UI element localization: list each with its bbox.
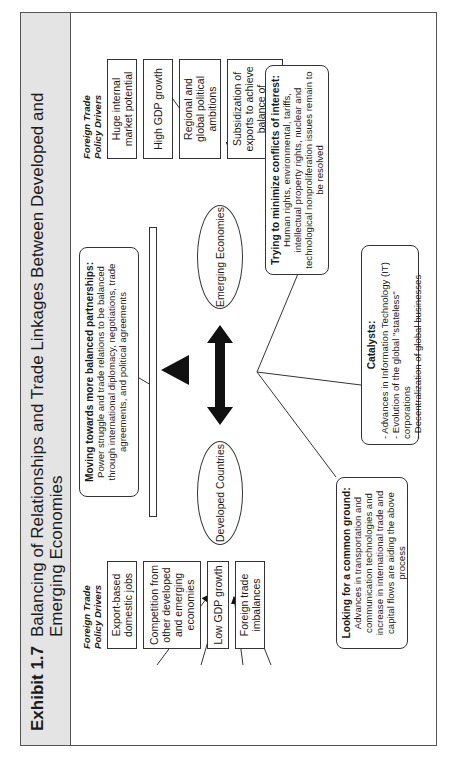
catalyst-item: - Evolution of the global "stateless" co…: [390, 251, 412, 439]
common-ground-callout: Looking for a common ground: Advances in…: [336, 477, 408, 649]
developed-driver-box: Export-based domestic jobs: [107, 561, 137, 649]
double-arrow-icon: [207, 325, 233, 425]
common-ground-heading: Looking for a common ground:: [341, 483, 352, 643]
balanced-partnerships-callout: Moving towards more balanced partnership…: [79, 247, 139, 497]
conflicts-of-interest-callout: Trying to minimize conflicts of interest…: [265, 65, 329, 275]
exhibit-frame: Exhibit 1.7 Balancing of Relationships a…: [20, 12, 437, 746]
developed-countries-ellipse: Developed Countries: [197, 441, 243, 545]
catalysts-callout: Catalysts: - Advances in Information Tec…: [361, 245, 419, 445]
emerging-driver-box: Regional and global political ambitions: [179, 59, 221, 159]
common-ground-body: Advances in transportation and communica…: [352, 491, 407, 636]
catalysts-list: - Advances in Information Technology (IT…: [379, 251, 423, 439]
emerging-economies-ellipse: Emerging Economies: [197, 205, 243, 309]
catalyst-item: - Advances in Information Technology (IT…: [379, 251, 390, 439]
emerging-driver-box: High GDP growth: [143, 59, 173, 159]
conflicts-body: Human rights, environmental, tariffs, in…: [281, 71, 325, 268]
conflicts-heading: Trying to minimize conflicts of interest…: [270, 71, 281, 269]
developed-driver-box: Foreign trade imbalances: [235, 561, 265, 649]
fulcrum-triangle-icon: [161, 355, 189, 385]
emerging-drivers-heading: Foreign Trade Policy Drivers: [81, 89, 103, 159]
developed-driver-box: Competition from other developed and eme…: [143, 561, 201, 649]
balanced-partnerships-body: Power struggle and trade relations to be…: [95, 264, 128, 481]
balance-beam: [149, 227, 157, 517]
emerging-driver-box: Huge internal market potential: [107, 59, 137, 159]
developed-drivers-heading: Foreign Trade Policy Drivers: [81, 579, 103, 649]
balanced-partnerships-heading: Moving towards more balanced partnership…: [84, 253, 95, 491]
exhibit-canvas: Exhibit 1.7 Balancing of Relationships a…: [0, 0, 459, 762]
catalyst-item: - Decentralization of global businesses: [412, 251, 423, 439]
developed-driver-box: Low GDP growth: [207, 561, 229, 649]
catalysts-heading: Catalysts:: [366, 251, 377, 439]
